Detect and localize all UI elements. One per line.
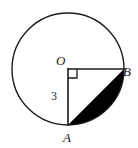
figure-canvas	[0, 0, 138, 148]
geometry-figure: O B A 3	[0, 0, 138, 148]
point-label-b: B	[123, 65, 131, 78]
radius-measure-label: 3	[51, 90, 57, 102]
point-label-a: A	[63, 131, 71, 144]
point-label-o: O	[56, 54, 65, 67]
right-angle-marker-icon	[68, 69, 77, 78]
